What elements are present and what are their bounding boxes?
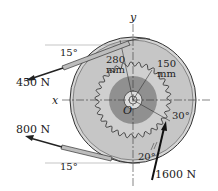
angle-450-label: 15° <box>60 47 78 58</box>
angle-30-label: 30° <box>172 110 190 121</box>
y-axis-label: y <box>129 11 137 24</box>
origin-label: O <box>123 104 132 117</box>
pulley-gear-diagram: y x O 450 N 15° 800 N 15° 1600 N 20° 30°… <box>0 0 218 191</box>
x-axis-label: x <box>52 94 59 107</box>
force-1600-label: 1600 N <box>155 168 196 181</box>
angle-20-label: 20° <box>138 151 156 162</box>
angle-800-label: 15° <box>60 161 78 172</box>
force-800-arrow <box>25 135 62 147</box>
dim-280-unit: mm <box>106 64 125 75</box>
dim-150-unit: mm <box>157 68 176 79</box>
force-450-label: 450 N <box>16 76 50 89</box>
force-800-label: 800 N <box>16 123 50 136</box>
